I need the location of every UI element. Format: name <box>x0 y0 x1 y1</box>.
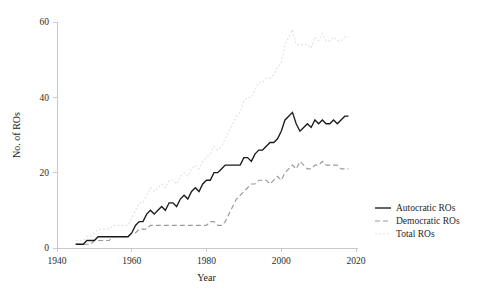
legend-label: Autocratic ROs <box>396 203 456 213</box>
chart-figure: 0204060 19401960198020002020 YearNo. of … <box>0 0 481 295</box>
y-tick-label: 20 <box>40 168 50 178</box>
y-tick-label: 60 <box>40 17 50 27</box>
x-tick-label: 1960 <box>122 256 141 266</box>
y-tick-label: 0 <box>44 243 49 253</box>
series-lines <box>76 30 349 245</box>
x-tick-label: 2000 <box>272 256 291 266</box>
x-tick-label: 1940 <box>48 256 67 266</box>
x-axis-title: Year <box>197 272 216 283</box>
series-line-total-ros <box>76 30 349 241</box>
line-chart: 0204060 19401960198020002020 YearNo. of … <box>0 0 481 295</box>
series-line-democratic-ros <box>76 161 349 244</box>
chart-legend: Autocratic ROsDemocratic ROsTotal ROs <box>375 203 460 239</box>
legend-label: Total ROs <box>396 229 435 239</box>
y-tick-label: 40 <box>40 93 50 103</box>
x-axis: 19401960198020002020 <box>48 248 366 266</box>
y-axis-title: No. of ROs <box>11 112 22 158</box>
y-axis: 0204060 <box>40 17 58 253</box>
series-line-autocratic-ros <box>76 112 349 244</box>
legend-label: Democratic ROs <box>396 216 460 226</box>
x-tick-label: 2020 <box>347 256 366 266</box>
x-tick-label: 1980 <box>197 256 216 266</box>
